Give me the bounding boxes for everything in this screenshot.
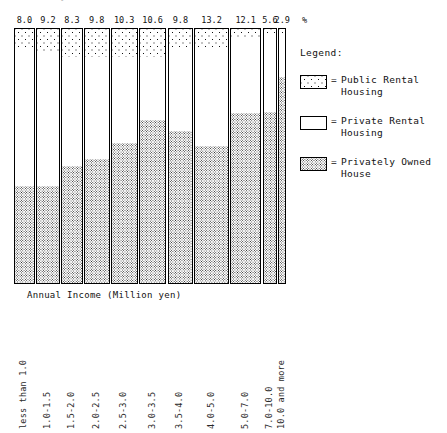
category-label: 3.0-3.5 [147, 392, 157, 429]
category-label: less than 1.0 [18, 360, 28, 429]
bar-segment-owned [15, 186, 34, 283]
bar-column [263, 28, 278, 284]
bar-segment-public [85, 29, 109, 57]
category-label: 2.0-2.5 [91, 392, 101, 429]
bar-segment-private [195, 47, 227, 146]
bar-segment-public [112, 29, 137, 57]
legend-title: Legend: [300, 47, 447, 58]
category-label: 4.0-5.0 [206, 392, 216, 429]
category-label: 1.0-1.5 [42, 392, 52, 429]
bar-segment-public [62, 29, 82, 57]
bar-column [36, 28, 60, 284]
column-width-label: 10.3 [108, 15, 140, 25]
legend: Legend: =Public Rental Housing=Private R… [300, 47, 447, 197]
legend-equals-sign: = [331, 115, 337, 126]
bar-segment-public [15, 29, 34, 47]
bar-column [61, 28, 83, 284]
legend-item: =Public Rental Housing [300, 74, 447, 100]
bar-segment-owned [279, 77, 285, 283]
bar-segment-owned [231, 113, 261, 283]
bar-segment-public [140, 29, 166, 57]
bar-segment-owned [169, 131, 193, 283]
bar-segment-owned [37, 186, 59, 283]
category-label: 1.5-2.0 [66, 392, 76, 429]
column-width-labels: 8.09.28.39.810.310.69.813.212.15.62.9 [0, 15, 447, 27]
bar-segment-owned [264, 112, 277, 283]
bar-segment-private [264, 35, 277, 111]
bar-segment-private [15, 47, 34, 187]
legend-items: =Public Rental Housing=Private Rental Ho… [300, 74, 447, 182]
bar-column [111, 28, 138, 284]
bar-segment-public [169, 29, 193, 49]
bar-segment-public [37, 29, 59, 53]
legend-label: Private Rental Housing [341, 115, 425, 139]
legend-label: Public Rental Housing [341, 74, 419, 98]
category-label: 10.0 and more [276, 360, 286, 429]
column-width-label: 2.9 [266, 15, 298, 25]
bar-segment-private [279, 34, 285, 77]
category-label: 3.5-4.0 [174, 392, 184, 429]
percent-unit-label: % [302, 15, 307, 25]
bar-segment-private [231, 39, 261, 113]
bar-segment-private [37, 53, 59, 186]
bar-column [168, 28, 194, 284]
bar-segment-owned [140, 120, 166, 283]
bar-column [230, 28, 262, 284]
legend-item: =Private Rental Housing [300, 115, 447, 141]
bar-column [278, 28, 286, 284]
legend-equals-sign: = [331, 74, 337, 85]
bar-column [84, 28, 110, 284]
column-width-label: 13.2 [196, 15, 228, 25]
stacked-bars-plot [14, 28, 286, 284]
bar-segment-public [231, 29, 261, 39]
legend-equals-sign: = [331, 156, 337, 167]
bar-segment-owned [62, 166, 82, 283]
chart-title-cropped: Tenure by Annual Income of Household [14, 0, 223, 1]
bar-segment-public [195, 29, 227, 47]
category-tick-labels: less than 1.01.0-1.51.5-2.02.0-2.52.5-3.… [0, 330, 447, 433]
bar-segment-private [112, 57, 137, 143]
legend-swatch-pub [300, 75, 327, 89]
bar-segment-owned [195, 146, 227, 283]
legend-swatch-priv [300, 116, 327, 130]
bar-segment-owned [85, 159, 109, 283]
column-width-label: 9.8 [164, 15, 196, 25]
bar-segment-private [140, 57, 166, 121]
bar-segment-owned [112, 143, 137, 283]
legend-swatch-own [300, 157, 327, 171]
bar-segment-private [169, 49, 193, 130]
category-label: 5.0-7.0 [240, 392, 250, 429]
chart-canvas: Tenure by Annual Income of Household 8.0… [0, 0, 447, 433]
legend-item: =Privately Owned House [300, 156, 447, 182]
category-label: 7.0-10.0 [264, 386, 274, 429]
bar-column [14, 28, 35, 284]
category-label: 2.5-3.0 [118, 392, 128, 429]
bar-segment-private [62, 57, 82, 166]
bar-column [194, 28, 228, 284]
x-axis-label: Annual Income (Million yen) [27, 290, 181, 300]
legend-label: Privately Owned House [341, 156, 431, 180]
bar-column [139, 28, 167, 284]
bar-segment-private [85, 57, 109, 159]
